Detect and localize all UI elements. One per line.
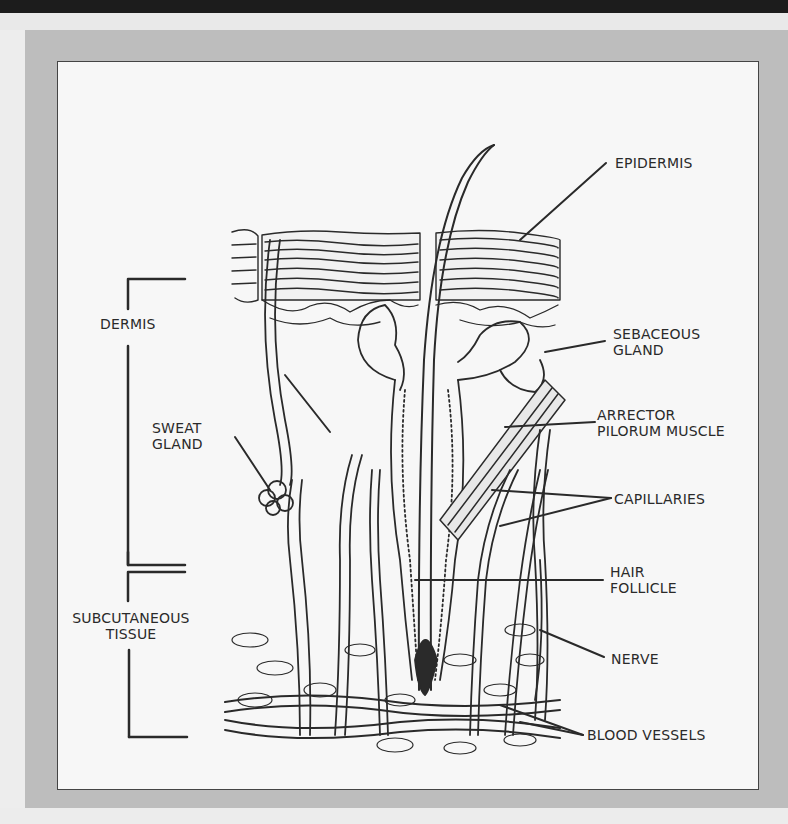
hair-shaft — [419, 145, 494, 690]
label-blood-vessels: BLOOD VESSELS — [587, 727, 706, 743]
label-dermis: DERMIS — [100, 316, 156, 332]
label-epidermis: EPIDERMIS — [615, 155, 693, 171]
sebaceous-glands — [358, 305, 544, 392]
label-nerve: NERVE — [611, 651, 659, 667]
epidermis-layers — [232, 230, 560, 302]
label-capillaries: CAPILLARIES — [614, 491, 705, 507]
label-hair-follicle: HAIR FOLLICLE — [610, 564, 677, 596]
subcutaneous-bracket — [128, 572, 187, 737]
blood-vessels-drawing — [225, 695, 560, 738]
label-sweat-gland: SWEAT GLAND — [152, 420, 203, 452]
label-arrector-pilorum-muscle: ARRECTOR PILORUM MUSCLE — [597, 407, 725, 439]
dermal-papillae — [262, 300, 558, 327]
label-sebaceous-gland: SEBACEOUS GLAND — [613, 326, 700, 358]
hair-follicle-drawing — [391, 380, 463, 695]
label-subcutaneous-tissue: SUBCUTANEOUS TISSUE — [72, 610, 190, 642]
